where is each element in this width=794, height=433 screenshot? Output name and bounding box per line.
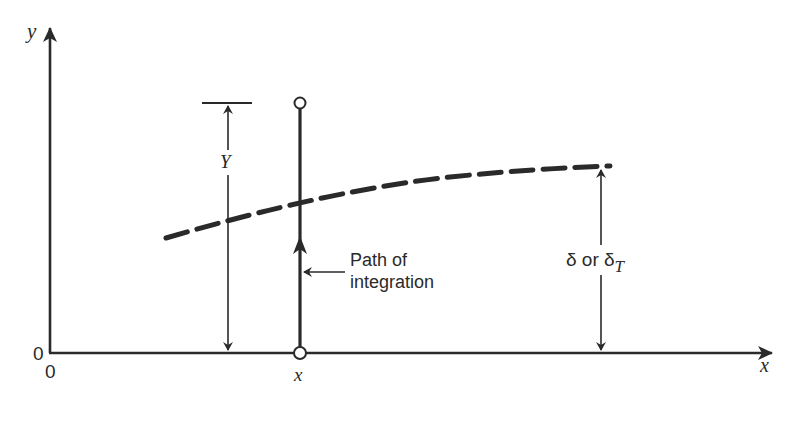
x-axis-label: x <box>759 354 769 376</box>
origin-x-label: 0 <box>45 361 56 382</box>
origin-y-label: 0 <box>33 343 44 364</box>
delta-dimension-label: δ or δT <box>566 249 626 276</box>
Y-dimension-label: Y <box>220 151 233 172</box>
delta-prefix: δ or δ <box>566 249 615 270</box>
delta-subscript: T <box>615 257 626 276</box>
top-open-circle <box>295 98 306 109</box>
y-axis-label: y <box>25 19 37 43</box>
path-label-line2: integration <box>350 272 434 292</box>
path-label-line1: Path of <box>350 250 408 270</box>
x-position-label: x <box>293 364 303 385</box>
diagram-canvas: y x 0 0 x Path of integration Y δ or δT <box>0 0 794 433</box>
boundary-layer-curve <box>166 166 610 238</box>
path-of-integration-line <box>293 98 307 360</box>
bottom-open-circle <box>294 347 306 359</box>
